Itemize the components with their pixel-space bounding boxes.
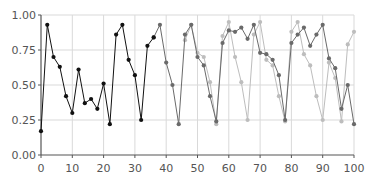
data-point-marker xyxy=(177,122,181,126)
data-point-marker xyxy=(233,30,237,34)
data-point-marker xyxy=(233,55,237,59)
data-point-marker xyxy=(258,51,262,55)
series-line xyxy=(41,25,154,131)
series-light xyxy=(183,20,356,126)
data-point-marker xyxy=(83,101,87,105)
data-point-marker xyxy=(45,23,49,27)
data-point-marker xyxy=(327,56,331,60)
data-point-marker xyxy=(296,20,300,24)
data-point-marker xyxy=(95,107,99,111)
data-point-marker xyxy=(302,26,306,30)
data-point-marker xyxy=(139,118,143,122)
data-point-marker xyxy=(339,107,343,111)
data-point-marker xyxy=(208,80,212,84)
data-point-marker xyxy=(346,42,350,46)
y-tick-label: 0.00 xyxy=(12,149,37,162)
data-point-marker xyxy=(39,129,43,133)
x-tick-label: 30 xyxy=(128,162,142,175)
data-point-marker xyxy=(314,33,318,37)
y-axis-ticks: 0.000.250.500.751.00 xyxy=(12,9,42,162)
data-point-marker xyxy=(239,80,243,84)
y-tick-label: 1.00 xyxy=(12,9,37,22)
x-axis-ticks: 0102030405060708090100 xyxy=(38,155,365,175)
y-tick-label: 0.25 xyxy=(12,114,37,127)
data-point-marker xyxy=(145,44,149,48)
data-point-marker xyxy=(195,55,199,59)
data-point-marker xyxy=(321,118,325,122)
line-chart: 0.000.250.500.751.00 0102030405060708090… xyxy=(0,0,373,183)
data-point-marker xyxy=(208,94,212,98)
series-dark xyxy=(39,23,156,134)
x-tick-label: 90 xyxy=(316,162,330,175)
data-point-marker xyxy=(264,52,268,56)
data-point-marker xyxy=(227,20,231,24)
y-tick-label: 0.75 xyxy=(12,44,37,57)
data-point-marker xyxy=(333,66,337,70)
data-point-marker xyxy=(352,122,356,126)
data-point-marker xyxy=(277,73,281,77)
data-point-marker xyxy=(164,61,168,65)
data-point-marker xyxy=(258,20,262,24)
data-point-marker xyxy=(339,119,343,123)
data-point-marker xyxy=(302,52,306,56)
x-tick-label: 50 xyxy=(191,162,205,175)
data-point-marker xyxy=(220,34,224,38)
data-point-marker xyxy=(239,26,243,30)
data-point-marker xyxy=(51,55,55,59)
data-point-marker xyxy=(346,83,350,87)
data-point-marker xyxy=(158,23,162,27)
x-tick-label: 70 xyxy=(253,162,267,175)
data-point-marker xyxy=(314,94,318,98)
data-point-marker xyxy=(271,58,275,62)
data-point-marker xyxy=(264,58,268,62)
data-point-marker xyxy=(352,30,356,34)
y-tick-label: 0.50 xyxy=(12,79,37,92)
data-point-marker xyxy=(308,44,312,48)
data-point-marker xyxy=(245,37,249,41)
data-point-marker xyxy=(277,94,281,98)
series-line xyxy=(185,22,354,124)
data-point-marker xyxy=(152,35,156,39)
data-point-marker xyxy=(296,33,300,37)
x-tick-label: 80 xyxy=(284,162,298,175)
data-point-marker xyxy=(252,23,256,27)
data-point-marker xyxy=(189,23,193,27)
data-point-marker xyxy=(58,65,62,69)
x-tick-label: 0 xyxy=(38,162,45,175)
data-point-marker xyxy=(220,41,224,45)
x-tick-label: 40 xyxy=(159,162,173,175)
data-point-marker xyxy=(70,111,74,115)
data-point-marker xyxy=(202,55,206,59)
x-tick-label: 60 xyxy=(222,162,236,175)
data-point-marker xyxy=(89,97,93,101)
data-point-marker xyxy=(308,63,312,67)
data-point-marker xyxy=(227,28,231,32)
data-point-marker xyxy=(245,118,249,122)
data-point-marker xyxy=(102,82,106,86)
data-point-marker xyxy=(127,58,131,62)
data-point-marker xyxy=(170,83,174,87)
data-point-marker xyxy=(114,33,118,37)
data-point-marker xyxy=(321,23,325,27)
data-point-marker xyxy=(214,119,218,123)
x-tick-label: 10 xyxy=(65,162,79,175)
data-point-marker xyxy=(108,122,112,126)
data-point-marker xyxy=(120,23,124,27)
data-point-marker xyxy=(183,33,187,37)
data-point-marker xyxy=(76,68,80,72)
data-point-marker xyxy=(289,41,293,45)
x-tick-label: 20 xyxy=(97,162,111,175)
x-tick-label: 100 xyxy=(344,162,365,175)
data-point-marker xyxy=(283,118,287,122)
data-point-marker xyxy=(202,63,206,67)
data-point-marker xyxy=(133,73,137,77)
data-point-marker xyxy=(289,30,293,34)
data-point-marker xyxy=(64,94,68,98)
